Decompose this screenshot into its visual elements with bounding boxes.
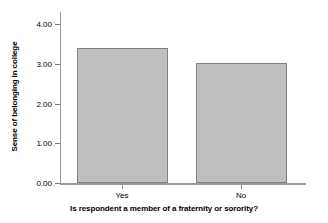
y-tick-3 <box>55 64 60 65</box>
y-tick-label-2: 2.00 <box>6 100 52 109</box>
bar-chart: Sense of belonging in college 0.00 1.00 … <box>0 0 328 223</box>
x-category-label-no: No <box>196 190 286 201</box>
y-tick-label-0: 0.00 <box>6 179 52 188</box>
y-tick-0 <box>55 183 60 184</box>
x-category-label-yes: Yes <box>77 190 167 201</box>
x-axis-line <box>60 183 306 185</box>
x-tick-no <box>241 185 242 189</box>
x-axis-title: Is respondent a member of a fraternity o… <box>0 204 328 213</box>
x-tick-yes <box>122 185 123 189</box>
y-tick-2 <box>55 104 60 105</box>
y-tick-label-4: 4.00 <box>6 20 52 29</box>
bar-no <box>196 63 287 183</box>
y-tick-label-3: 3.00 <box>6 60 52 69</box>
y-axis-title: Sense of belonging in college <box>8 5 22 188</box>
y-axis-line <box>60 12 61 184</box>
y-tick-4 <box>55 24 60 25</box>
y-tick-label-1: 1.00 <box>6 139 52 148</box>
y-tick-1 <box>55 143 60 144</box>
bar-yes <box>77 48 168 183</box>
